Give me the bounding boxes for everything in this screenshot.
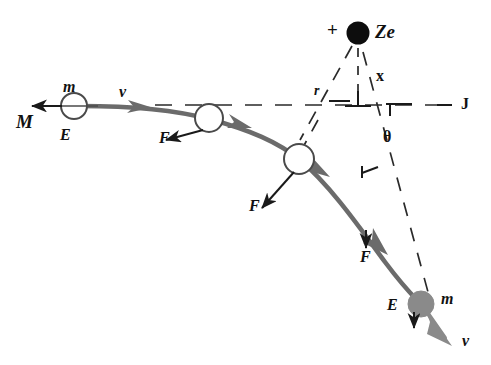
force-label-3: F <box>360 249 371 265</box>
force-arrow-2 <box>262 172 294 208</box>
final-mass-label: m <box>441 291 453 307</box>
alpha-particle-position-3 <box>284 144 314 174</box>
initial-energy-label: E <box>60 127 71 143</box>
final-energy-label: E <box>387 297 398 313</box>
angular-momentum-label-J: J <box>461 96 469 112</box>
right-angle-marks <box>329 91 412 116</box>
force-arrow-1 <box>166 130 203 140</box>
nucleus-symbol-label: Ze <box>375 22 395 41</box>
alpha-particle-position-2 <box>195 104 223 132</box>
diagram-canvas <box>0 0 491 365</box>
scatter-angle-label-theta: θ <box>383 129 391 145</box>
vector-arrows <box>32 106 414 328</box>
force-label-1: F <box>159 130 170 146</box>
force-label-2: F <box>249 198 260 214</box>
rutherford-scattering-figure: + Ze M m E v F F F x r J θ E m v <box>0 0 491 365</box>
initial-velocity-label: v <box>119 84 126 100</box>
impact-parameter-label-x: x <box>376 68 384 84</box>
theta-angle-indicator <box>362 166 378 178</box>
alpha-particle-final <box>408 291 434 317</box>
theta-arc-segment <box>362 167 378 173</box>
outgoing-asymptote-line <box>363 52 428 292</box>
trajectory-arrowhead-2 <box>227 114 252 128</box>
radius-label-r: r <box>314 84 319 98</box>
target-nucleus <box>347 22 370 45</box>
radius-line-r <box>300 46 352 140</box>
nucleus-charge-sign: + <box>327 20 338 39</box>
final-velocity-label: v <box>462 333 469 349</box>
momentum-label-M: M <box>16 112 33 131</box>
initial-mass-label: m <box>63 79 75 95</box>
